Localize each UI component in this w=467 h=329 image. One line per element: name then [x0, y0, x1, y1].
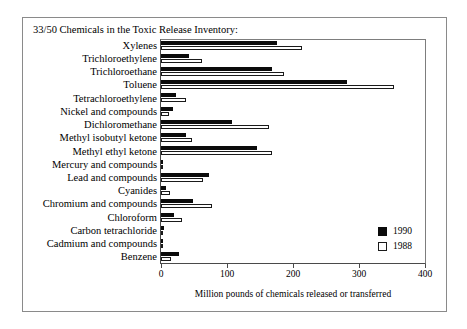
category-label: Methyl isobutyl ketone — [60, 132, 157, 143]
category-label: Cyanides — [118, 185, 157, 196]
chart-title: 33/50 Chemicals in the Toxic Release Inv… — [33, 24, 238, 35]
x-tick-label: 300 — [352, 269, 366, 279]
x-tick-label: 200 — [286, 269, 300, 279]
bar-1988 — [161, 218, 182, 222]
category-label: Mercury and compounds — [52, 159, 157, 170]
plot-wrapper: XylenesTrichloroethyleneTrichloroethaneT… — [160, 39, 426, 264]
x-axis-label: Million pounds of chemicals released or … — [160, 289, 426, 299]
bar-1990 — [161, 146, 257, 150]
x-tick — [227, 264, 228, 268]
bar-group — [160, 92, 426, 105]
bar-1988 — [161, 151, 272, 155]
category-label: Methyl ethyl ketone — [72, 146, 157, 157]
x-tick-label: 0 — [159, 269, 164, 279]
x-tick-label: 400 — [418, 269, 432, 279]
bar-1990 — [161, 80, 347, 84]
bar-1990 — [161, 186, 166, 190]
category-label: Chloroform — [107, 212, 157, 223]
bar-1990 — [161, 54, 189, 58]
bar-group — [160, 185, 426, 198]
bar-1990 — [161, 199, 193, 203]
bar-group — [160, 132, 426, 145]
bar-1990 — [161, 226, 164, 230]
bar-group — [160, 39, 426, 52]
category-label: Trichloroethylene — [82, 53, 157, 64]
x-tick — [359, 264, 360, 268]
category-label: Nickel and compounds — [60, 106, 157, 117]
bar-group — [160, 105, 426, 118]
category-label: Trichloroethane — [90, 66, 157, 77]
bar-group — [160, 65, 426, 78]
bar-group — [160, 52, 426, 65]
bar-group — [160, 118, 426, 131]
bar-1988 — [161, 72, 284, 76]
bar-1990 — [161, 120, 232, 124]
bar-1990 — [161, 213, 174, 217]
x-tick — [293, 264, 294, 268]
bar-group — [160, 79, 426, 92]
category-label: Tetrachloroethylene — [73, 93, 157, 104]
category-label: Chromium and compounds — [43, 198, 157, 209]
x-tick — [161, 264, 162, 268]
figure-frame: 33/50 Chemicals in the Toxic Release Inv… — [22, 17, 447, 312]
bar-group — [160, 158, 426, 171]
bar-1990 — [161, 93, 176, 97]
bar-1990 — [161, 239, 163, 243]
bar-group — [160, 171, 426, 184]
bar-1988 — [161, 257, 171, 261]
bar-1990 — [161, 252, 179, 256]
bar-1988 — [161, 191, 170, 195]
bar-1988 — [161, 204, 212, 208]
chart-legend: 1990 1988 — [378, 225, 412, 255]
bar-1988 — [161, 85, 394, 89]
bar-1988 — [161, 46, 302, 50]
category-label: Carbon tetrachloride — [70, 225, 157, 236]
bar-group — [160, 198, 426, 211]
legend-item: 1988 — [378, 240, 412, 252]
legend-label-1988: 1988 — [393, 241, 412, 251]
bar-1990 — [161, 133, 186, 137]
bar-1990 — [161, 173, 209, 177]
bar-1988 — [161, 125, 269, 129]
legend-swatch-1990 — [378, 227, 387, 236]
bar-group — [160, 145, 426, 158]
bar-1988 — [161, 178, 203, 182]
bar-1988 — [161, 231, 163, 235]
bar-1988 — [161, 98, 186, 102]
bar-1988 — [161, 112, 169, 116]
legend-item: 1990 — [378, 225, 412, 237]
bar-group — [160, 211, 426, 224]
bar-1990 — [161, 107, 173, 111]
category-label: Lead and compounds — [67, 172, 157, 183]
bar-1988 — [161, 244, 163, 248]
x-tick-label: 100 — [220, 269, 234, 279]
bar-1988 — [161, 138, 192, 142]
bar-1988 — [161, 59, 202, 63]
category-label: Toluene — [123, 79, 157, 90]
category-label: Dichloromethane — [84, 119, 157, 130]
bar-1990 — [161, 160, 163, 164]
bar-1990 — [161, 67, 272, 71]
category-label: Cadmium and compounds — [47, 238, 157, 249]
legend-swatch-1988 — [378, 242, 387, 251]
x-tick — [425, 264, 426, 268]
bar-1988 — [161, 165, 163, 169]
legend-label-1990: 1990 — [393, 226, 412, 236]
category-label: Benzene — [121, 251, 157, 262]
category-label: Xylenes — [123, 40, 157, 51]
bar-1990 — [161, 41, 277, 45]
